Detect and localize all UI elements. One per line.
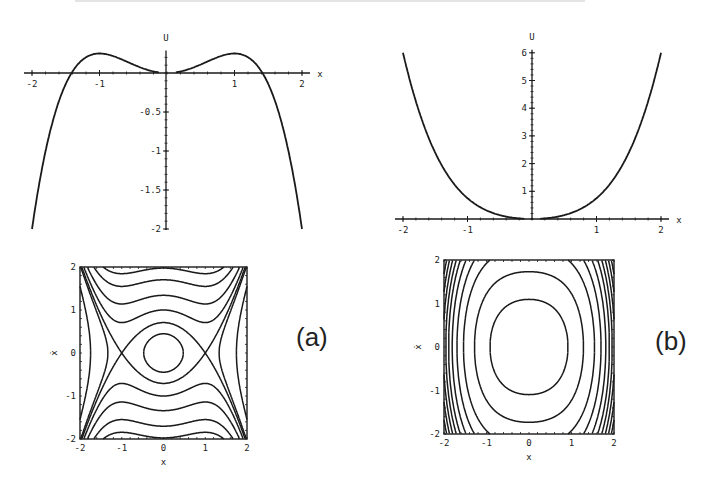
y-tick-label: 6 bbox=[522, 48, 527, 58]
y-tick-label: 4 bbox=[522, 103, 527, 113]
y-tick-label: 1 bbox=[71, 305, 76, 315]
x-tick-label: 2 bbox=[244, 443, 249, 453]
x-tick-label: 1 bbox=[232, 79, 237, 89]
x-tick-label: 2 bbox=[299, 79, 304, 89]
x-tick-label: -2 bbox=[27, 79, 38, 89]
energy-contour bbox=[88, 267, 240, 304]
x-tick-label: -2 bbox=[75, 443, 86, 453]
energy-contour bbox=[94, 420, 233, 439]
y-axis-label: U bbox=[163, 33, 168, 43]
y-tick-label: -0.5 bbox=[139, 107, 161, 117]
x-tick-label: -1 bbox=[481, 438, 492, 448]
x-tick-label: -1 bbox=[116, 443, 127, 453]
potential-plot-a: -2-112-0.5-1-1.5-2xU bbox=[24, 33, 323, 235]
y-tick-label: 2 bbox=[435, 255, 440, 265]
x-tick-label: -2 bbox=[398, 225, 409, 235]
x-tick-label: -2 bbox=[439, 438, 450, 448]
x-tick-label: 0 bbox=[526, 438, 531, 448]
x-tick-label: -1 bbox=[94, 79, 105, 89]
y-tick-label: -2 bbox=[429, 429, 440, 439]
y-tick-label: -1 bbox=[65, 391, 76, 401]
x-tick-label: 2 bbox=[611, 438, 616, 448]
y-tick-label: -2 bbox=[65, 434, 76, 444]
x-tick-label: 2 bbox=[658, 225, 663, 235]
y-tick-label: 1 bbox=[522, 186, 527, 196]
x-tick-label: 1 bbox=[594, 225, 599, 235]
y-tick-label: 2 bbox=[71, 262, 76, 272]
panel-label-b: (b) bbox=[655, 326, 687, 357]
x-tick-label: 0 bbox=[161, 443, 166, 453]
energy-contour bbox=[475, 272, 584, 341]
phase-portrait-b: -2-1012210-1-2xẋ bbox=[413, 255, 617, 462]
y-tick-label: -1 bbox=[429, 386, 440, 396]
y-tick-label: 3 bbox=[522, 131, 527, 141]
energy-contour bbox=[475, 353, 584, 422]
y-tick-label: 5 bbox=[522, 76, 527, 86]
y-tick-label: -2 bbox=[150, 224, 161, 234]
y-tick-label: 2 bbox=[522, 159, 527, 169]
y-axis-label: U bbox=[529, 32, 534, 42]
phase-portrait-a: -2-1012210-1-2xẋ bbox=[49, 262, 250, 467]
x-axis-label: x bbox=[317, 69, 323, 79]
y-tick-label: -1.5 bbox=[139, 185, 161, 195]
y-axis-label: ẋ bbox=[49, 350, 59, 356]
x-tick-label: -1 bbox=[462, 225, 473, 235]
x-axis-label: x bbox=[676, 215, 682, 225]
energy-contour bbox=[490, 353, 568, 395]
energy-contour bbox=[103, 432, 224, 439]
energy-contour bbox=[88, 402, 240, 439]
figure-canvas: -2-112-0.5-1-1.5-2xU -2-112123456xU -2-1… bbox=[0, 0, 711, 487]
y-tick-label: 1 bbox=[435, 299, 440, 309]
panel-label-a: (a) bbox=[296, 322, 328, 353]
y-tick-label: 0 bbox=[71, 348, 76, 358]
energy-contour bbox=[444, 402, 614, 433]
y-axis-label: ẋ bbox=[413, 344, 423, 350]
y-tick-label: -1 bbox=[150, 146, 161, 156]
plot-frame bbox=[444, 260, 614, 434]
y-tick-label: 0 bbox=[435, 342, 440, 352]
x-axis-label: x bbox=[526, 452, 532, 462]
energy-contour bbox=[103, 267, 224, 274]
x-tick-label: 1 bbox=[569, 438, 574, 448]
potential-plot-b: -2-112123456xU bbox=[395, 32, 682, 235]
energy-contour bbox=[444, 261, 614, 292]
x-tick-label: 1 bbox=[203, 443, 208, 453]
x-axis-label: x bbox=[161, 457, 167, 467]
plot-frame bbox=[80, 267, 247, 439]
energy-contour bbox=[94, 267, 233, 286]
potential-curve bbox=[32, 54, 302, 230]
energy-contour bbox=[490, 299, 568, 341]
